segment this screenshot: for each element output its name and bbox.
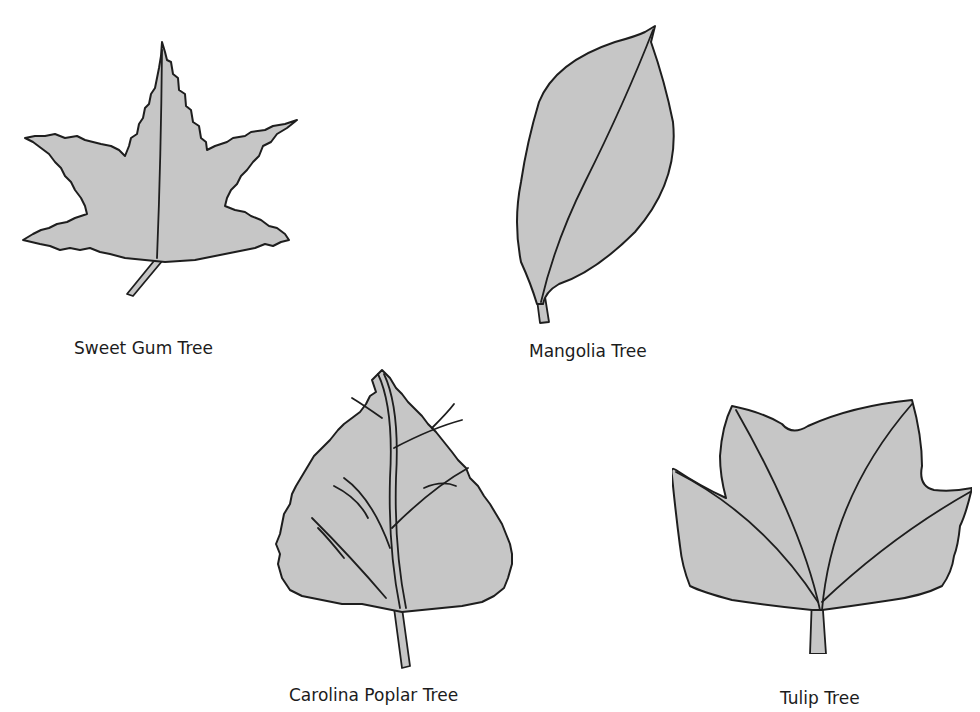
- sweet-gum-leaf-illustration: [15, 38, 305, 303]
- sweet-gum-label: Sweet Gum Tree: [74, 338, 213, 358]
- tulip-label: Tulip Tree: [780, 688, 860, 708]
- tulip-leaf-illustration: [672, 396, 972, 654]
- mangolia-leaf-illustration: [515, 22, 695, 327]
- mangolia-label: Mangolia Tree: [529, 341, 647, 361]
- carolina-poplar-label: Carolina Poplar Tree: [289, 685, 458, 705]
- carolina-poplar-leaf-illustration: [272, 368, 527, 673]
